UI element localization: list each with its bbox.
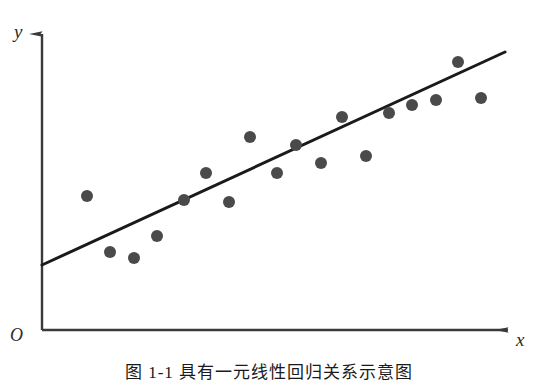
regression-line: [42, 52, 505, 265]
scatter-point: [81, 190, 93, 202]
scatter-point: [336, 111, 348, 123]
scatter-point: [452, 56, 464, 68]
x-axis-label: x: [516, 330, 524, 349]
y-axis-label: y: [14, 22, 22, 41]
scatter-point: [290, 139, 302, 151]
scatter-point: [200, 167, 212, 179]
scatter-point: [151, 230, 163, 242]
scatter-point: [360, 150, 372, 162]
scatter-point: [244, 131, 256, 143]
origin-label: O: [10, 326, 23, 344]
scatter-point: [383, 107, 395, 119]
scatter-point: [223, 196, 235, 208]
scatter-point: [406, 99, 418, 111]
scatter-point: [271, 167, 283, 179]
scatter-point: [475, 92, 487, 104]
scatter-point: [178, 194, 190, 206]
scatter-point: [104, 246, 116, 258]
scatter-point: [128, 252, 140, 264]
figure-caption: 图 1-1 具有一元线性回归关系示意图: [0, 358, 538, 383]
scatter-point: [315, 157, 327, 169]
scatter-point: [430, 94, 442, 106]
